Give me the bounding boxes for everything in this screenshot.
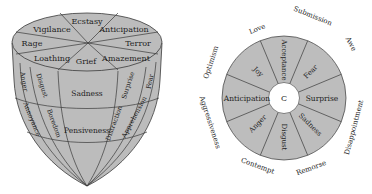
label-anticipation: Anticipation (98, 25, 148, 34)
label-remorse: Remorse (295, 159, 327, 177)
cone-model: Ecstasy Anticipation Terror Amazement Gr… (12, 13, 162, 186)
label-submission: Submission (292, 5, 333, 28)
label-vigilance: Vigilance (32, 25, 71, 34)
label-contempt: Contempt (240, 156, 276, 176)
label-awe: Awe (343, 35, 358, 53)
label-aggressiveness: Aggressiveness (197, 94, 222, 150)
label-disgust: Disgust (280, 124, 288, 151)
label-amazement: Amazement (101, 54, 151, 63)
label-grief: Grief (76, 57, 98, 66)
label-optimism: Optimism (202, 44, 220, 80)
label-terror: Terror (125, 39, 151, 48)
label-surprise: Surprise (306, 94, 339, 103)
wheel-model: C Acceptance Fear Surprise Sadness Disgu… (197, 5, 365, 177)
label-loathing: Loathing (34, 54, 70, 63)
label-ecstasy: Ecstasy (71, 17, 103, 26)
label-love: Love (248, 22, 267, 36)
label-disappointment: Disappointment (343, 99, 365, 156)
label-pensiveness: Pensiveness (64, 126, 110, 135)
label-rage: Rage (22, 39, 43, 48)
label-acceptance: Acceptance (280, 38, 288, 80)
emotion-models-diagram: Ecstasy Anticipation Terror Amazement Gr… (0, 0, 372, 194)
label-anticipation: Anticipation (223, 94, 270, 103)
label-sadness: Sadness (71, 89, 103, 98)
wheel-center-label: C (281, 94, 287, 103)
